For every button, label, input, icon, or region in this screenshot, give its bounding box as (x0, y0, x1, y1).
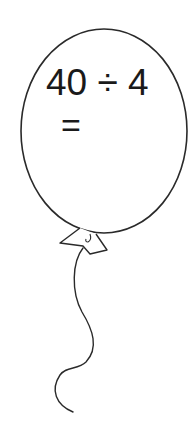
division-problem: 40 ÷ 4 (46, 64, 149, 101)
balloon-worksheet: 40 ÷ 4 = (0, 0, 192, 423)
balloon-string (55, 248, 93, 412)
equals-sign: = (61, 108, 81, 142)
balloon-body (21, 29, 187, 233)
